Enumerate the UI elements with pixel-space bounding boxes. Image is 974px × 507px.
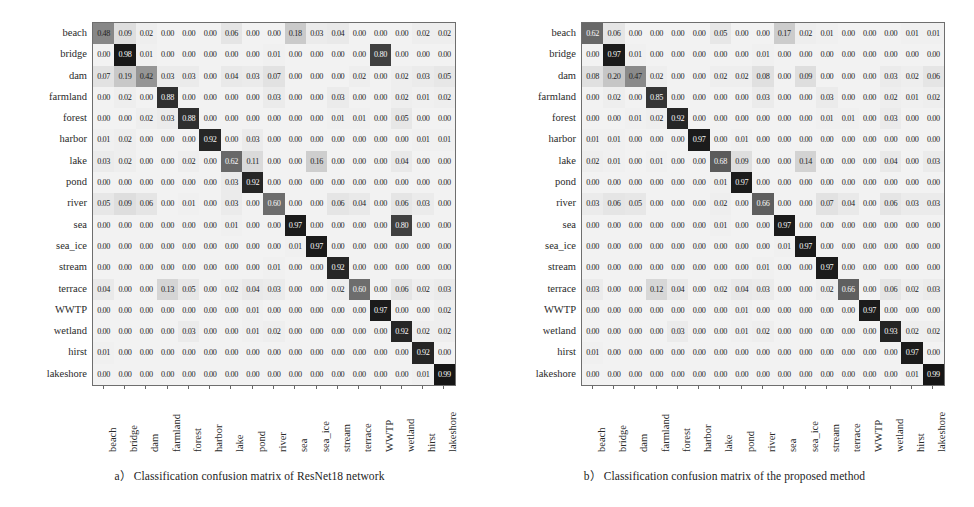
- confusion-cell: 0.00: [349, 172, 370, 193]
- confusion-cell: 0.00: [242, 193, 263, 214]
- confusion-cell: 0.01: [901, 87, 922, 108]
- confusion-cell: 0.00: [774, 364, 795, 385]
- confusion-cell: 0.02: [221, 279, 242, 300]
- confusion-cell: 0.00: [774, 342, 795, 363]
- confusion-cell: 0.00: [859, 236, 880, 257]
- confusion-cell: 0.00: [838, 172, 859, 193]
- confusion-cell: 0.00: [816, 215, 837, 236]
- confusion-cell: 0.00: [391, 23, 412, 44]
- confusion-cell: 0.03: [93, 151, 114, 172]
- confusion-cell: 0.97: [688, 129, 709, 150]
- y-axis-tick-label: river: [507, 192, 581, 213]
- y-axis-tick-label: stream: [18, 256, 92, 277]
- confusion-cell: 0.00: [157, 215, 178, 236]
- confusion-cell: 0.01: [731, 129, 752, 150]
- x-axis-tick-label: farmland: [660, 414, 671, 452]
- confusion-cell: 0.00: [391, 342, 412, 363]
- confusion-cell: 0.00: [285, 172, 306, 193]
- confusion-cell: 0.03: [178, 321, 199, 342]
- confusion-cell: 0.00: [136, 129, 157, 150]
- confusion-cell: 0.00: [412, 108, 433, 129]
- confusion-cell: 0.00: [221, 342, 242, 363]
- y-axis-tick-label: lakeshore: [18, 363, 92, 384]
- confusion-cell: 0.03: [221, 193, 242, 214]
- confusion-cell: 0.03: [178, 66, 199, 87]
- confusion-cell: 0.97: [370, 300, 391, 321]
- confusion-cell: 0.20: [603, 66, 624, 87]
- confusion-cell: 0.00: [688, 300, 709, 321]
- confusion-cell: 0.00: [370, 151, 391, 172]
- confusion-cell: 0.04: [667, 279, 688, 300]
- confusion-cell: 0.00: [901, 151, 922, 172]
- confusion-cell: 0.00: [859, 87, 880, 108]
- confusion-cell: 0.00: [752, 364, 773, 385]
- x-axis-tick-label: lakeshore: [936, 412, 947, 452]
- confusion-cell: 0.00: [816, 364, 837, 385]
- confusion-cell: 0.00: [434, 236, 455, 257]
- confusion-cell: 0.00: [242, 342, 263, 363]
- confusion-cell: 0.00: [688, 151, 709, 172]
- confusion-cell: 0.00: [157, 364, 178, 385]
- confusion-cell: 0.00: [816, 151, 837, 172]
- confusion-cell: 0.00: [774, 279, 795, 300]
- confusion-matrix-row: 0.030.060.050.000.000.000.020.000.660.00…: [582, 193, 944, 214]
- confusion-cell: 0.97: [859, 300, 880, 321]
- confusion-table-a: 0.480.090.020.000.000.000.060.000.000.18…: [93, 23, 455, 385]
- confusion-cell: 0.00: [688, 44, 709, 65]
- confusion-cell: 0.00: [710, 300, 731, 321]
- confusion-matrix-row: 0.000.000.010.020.920.000.000.000.000.00…: [582, 108, 944, 129]
- confusion-matrix-row: 0.000.000.000.000.000.000.000.000.000.00…: [582, 364, 944, 385]
- confusion-cell: 0.00: [880, 300, 901, 321]
- confusion-cell: 0.00: [923, 257, 944, 278]
- confusion-cell: 0.03: [157, 108, 178, 129]
- confusion-cell: 0.00: [178, 236, 199, 257]
- confusion-cell: 0.00: [603, 300, 624, 321]
- confusion-cell: 0.04: [327, 23, 348, 44]
- confusion-cell: 0.92: [327, 257, 348, 278]
- confusion-cell: 0.00: [646, 236, 667, 257]
- x-axis-tick-mark: [890, 386, 891, 389]
- confusion-cell: 0.00: [774, 108, 795, 129]
- confusion-cell: 0.97: [285, 215, 306, 236]
- confusion-cell: 0.00: [923, 129, 944, 150]
- confusion-cell: 0.02: [880, 87, 901, 108]
- confusion-table-b: 0.620.060.000.000.000.000.050.000.000.17…: [582, 23, 944, 385]
- confusion-cell: 0.00: [221, 44, 242, 65]
- x-axis-tick-label: wetland: [405, 419, 416, 452]
- confusion-cell: 0.08: [752, 66, 773, 87]
- confusion-cell: 0.00: [774, 172, 795, 193]
- confusion-cell: 0.00: [646, 215, 667, 236]
- confusion-cell: 0.04: [731, 279, 752, 300]
- confusion-cell: 0.01: [901, 364, 922, 385]
- confusion-cell: 0.00: [838, 236, 859, 257]
- confusion-cell: 0.00: [306, 108, 327, 129]
- y-axis-tick-label: hirst: [18, 341, 92, 362]
- confusion-cell: 0.17: [774, 23, 795, 44]
- confusion-cell: 0.00: [263, 129, 284, 150]
- confusion-cell: 0.00: [923, 342, 944, 363]
- confusion-cell: 0.01: [327, 108, 348, 129]
- confusion-cell: 0.00: [263, 172, 284, 193]
- confusion-cell: 0.00: [221, 236, 242, 257]
- confusion-cell: 0.00: [688, 257, 709, 278]
- x-axis-tick-mark: [124, 386, 125, 389]
- confusion-matrix-row: 0.010.010.000.000.000.970.000.010.000.00…: [582, 129, 944, 150]
- confusion-cell: 0.00: [306, 257, 327, 278]
- confusion-cell: 0.02: [923, 87, 944, 108]
- confusion-cell: 0.00: [859, 108, 880, 129]
- confusion-cell: 0.01: [263, 44, 284, 65]
- confusion-cell: 0.00: [221, 129, 242, 150]
- confusion-cell: 0.00: [795, 87, 816, 108]
- y-axis-tick-label: sea_ice: [18, 235, 92, 256]
- y-axis-tick-label: WWTP: [507, 299, 581, 320]
- confusion-cell: 0.00: [774, 300, 795, 321]
- confusion-cell: 0.02: [136, 23, 157, 44]
- confusion-cell: 0.00: [178, 215, 199, 236]
- y-axis-tick-label: beach: [18, 22, 92, 43]
- confusion-cell: 0.00: [646, 364, 667, 385]
- confusion-cell: 0.00: [434, 44, 455, 65]
- confusion-matrix-row: 0.000.000.000.000.000.000.000.010.000.00…: [582, 300, 944, 321]
- confusion-cell: 0.13: [157, 279, 178, 300]
- confusion-cell: 0.07: [93, 66, 114, 87]
- confusion-cell: 0.00: [603, 257, 624, 278]
